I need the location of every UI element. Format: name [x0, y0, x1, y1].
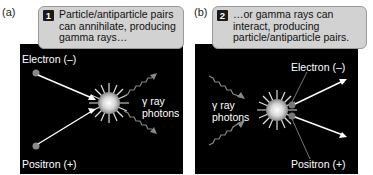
electron-leader-line	[292, 72, 307, 102]
photon-label-line1: γ ray	[212, 99, 235, 111]
gamma-wave-in-up-icon	[209, 76, 239, 96]
positron-particle-icon	[289, 113, 296, 120]
step-number-badge: 1	[43, 10, 54, 21]
panel-a-diagram: Electron (–) γ ray photons Positron (+)	[20, 44, 183, 174]
panel-b-callout: 2 …or gamma rays can interact, producing…	[212, 6, 367, 49]
positron-label: Positron (+)	[22, 158, 77, 170]
gamma-wave-up-icon	[124, 78, 152, 96]
panel-a-callout: 1 Particle/antiparticle pairs can annihi…	[38, 6, 184, 49]
gamma-wave-in-down-icon	[209, 123, 239, 145]
callout-line: Particle/antiparticle pairs	[59, 9, 178, 21]
positron-leader-line	[292, 119, 310, 159]
electron-arrow-icon	[38, 75, 92, 98]
panel-b-diagram: Electron (–) γ ray photons Positron (+)	[195, 44, 358, 174]
step-number-badge: 2	[217, 10, 228, 21]
electron-particle-icon	[289, 102, 296, 109]
positron-arrow-icon	[295, 117, 343, 135]
positron-label: Positron (+)	[291, 158, 346, 170]
photon-label-line2: photons	[142, 107, 179, 119]
callout-line: particle/antiparticle pairs.	[233, 32, 361, 44]
electron-label: Electron (–)	[291, 61, 345, 73]
starburst-icon	[89, 83, 129, 123]
photon-label-line1: γ ray	[142, 95, 165, 107]
panel-a-label: (a)	[2, 6, 15, 18]
callout-line: …or gamma rays can	[233, 9, 361, 21]
electron-label: Electron (–)	[22, 53, 76, 65]
photon-label-line2: photons	[212, 111, 249, 123]
positron-arrow-icon	[38, 111, 92, 144]
starburst-icon	[257, 90, 297, 130]
panel-b-label: (b)	[194, 6, 207, 18]
electron-arrow-icon	[295, 81, 343, 104]
callout-line: gamma rays…	[59, 32, 178, 44]
